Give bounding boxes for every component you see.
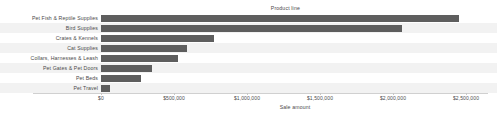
category-label: Bird Supplies [66,23,100,33]
x-tick-label: $1,000,000 [234,95,260,101]
chart-row: Cat Supplies [0,43,497,53]
chart-row: Crates & Kennels [0,33,497,43]
bar[interactable] [101,15,459,22]
bar[interactable] [101,45,187,52]
x-tick-label: $2,000,000 [380,95,406,101]
bar[interactable] [101,55,178,62]
x-tick-label: $2,500,000 [453,95,479,101]
chart-row: Pet Travel [0,83,497,93]
category-label: Pet Fish & Reptile Supplies [32,13,100,23]
x-tick-label: $500,000 [163,95,185,101]
bar[interactable] [101,65,152,72]
chart-row: Collars, Harnesses & Leash [0,53,497,63]
bar[interactable] [101,75,141,82]
bar[interactable] [101,85,110,92]
chart-row: Pet Fish & Reptile Supplies [0,13,497,23]
chart-row: Pet Gates & Pet Doors [0,63,497,73]
x-tick-label: $1,500,000 [307,95,333,101]
x-tick-label: $0 [98,95,104,101]
bar[interactable] [101,35,214,42]
category-label: Pet Beds [76,73,100,83]
y-axis-title: Product line [0,5,300,11]
horizontal-bar-chart: Product line Pet Fish & Reptile Supplies… [0,0,497,118]
chart-plot-area: Pet Fish & Reptile SuppliesBird Supplies… [0,13,497,93]
category-label: Collars, Harnesses & Leash [31,53,100,63]
category-label: Cat Supplies [67,43,100,53]
chart-row: Bird Supplies [0,23,497,33]
category-label: Crates & Kennels [56,33,100,43]
category-label: Pet Gates & Pet Doors [43,63,100,73]
bar[interactable] [101,25,402,32]
category-label: Pet Travel [73,83,100,93]
chart-row: Pet Beds [0,73,497,83]
x-axis-title: Sale amount [101,104,489,110]
